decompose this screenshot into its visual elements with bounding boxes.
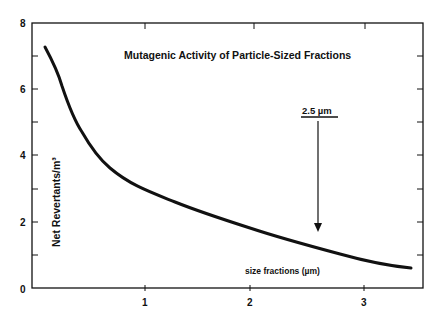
y-axis-ticks — [32, 56, 38, 255]
y-tick-label-2: 2 — [20, 217, 26, 228]
x-tick-label-3: 3 — [361, 297, 367, 308]
y-tick-label-0: 0 — [20, 284, 26, 295]
plot-frame — [32, 23, 423, 288]
x-axis-label: size fractions (µm) — [245, 266, 320, 276]
data-series-line — [45, 47, 411, 268]
x-tick-label-2: 2 — [247, 297, 253, 308]
x-tick-label-1: 1 — [142, 297, 148, 308]
y-axis-ticks-right — [417, 56, 423, 255]
y-axis-label: Net Revertants/m³ — [50, 157, 62, 247]
chart-title: Mutagenic Activity of Particle-Sized Fra… — [124, 49, 351, 61]
annotation-arrow-head-icon — [314, 223, 322, 232]
y-tick-label-8: 8 — [20, 18, 26, 29]
annotation-label: 2.5 µm — [302, 105, 332, 116]
y-tick-label-4: 4 — [20, 150, 26, 161]
chart-canvas: 8 6 4 2 0 1 2 3 Mutagenic Activity of Pa… — [0, 0, 438, 321]
y-tick-label-6: 6 — [20, 84, 26, 95]
